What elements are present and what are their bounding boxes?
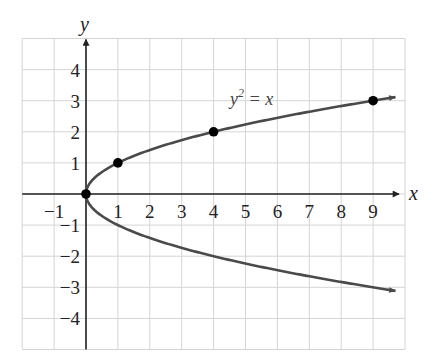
y-tick-label: −3 bbox=[60, 277, 80, 298]
data-point bbox=[113, 158, 123, 168]
plotted-points bbox=[81, 96, 378, 199]
upper-branch-curve bbox=[86, 97, 395, 194]
y-tick-label: 3 bbox=[71, 91, 81, 112]
x-tick-label: 4 bbox=[209, 201, 219, 222]
data-point bbox=[209, 127, 219, 137]
axes bbox=[22, 40, 399, 350]
y-tick-label: 2 bbox=[71, 122, 81, 143]
x-tick-label: 1 bbox=[113, 201, 123, 222]
data-point bbox=[81, 189, 91, 199]
y-tick-label: 1 bbox=[71, 153, 81, 174]
parabola-chart: −11234567894321−1−2−3−4 x y y2 = x bbox=[0, 0, 436, 362]
x-axis-label: x bbox=[408, 182, 418, 204]
x-tick-label: 7 bbox=[305, 201, 315, 222]
data-point bbox=[368, 96, 378, 106]
x-tick-label: 5 bbox=[241, 201, 251, 222]
equation-rest: = x bbox=[244, 89, 273, 109]
x-tick-label: 2 bbox=[145, 201, 155, 222]
equation-label: y2 = x bbox=[228, 86, 273, 109]
y-tick-label: −1 bbox=[60, 215, 80, 236]
equation-base: y bbox=[228, 89, 238, 109]
y-tick-label: 4 bbox=[71, 60, 81, 81]
y-tick-label: −4 bbox=[60, 308, 81, 329]
x-tick-label: 8 bbox=[336, 201, 346, 222]
y-axis-label: y bbox=[78, 13, 89, 36]
x-tick-label: 3 bbox=[177, 201, 187, 222]
x-tick-label: 6 bbox=[273, 201, 283, 222]
x-tick-label: 9 bbox=[368, 201, 378, 222]
y-tick-label: −2 bbox=[60, 246, 80, 267]
